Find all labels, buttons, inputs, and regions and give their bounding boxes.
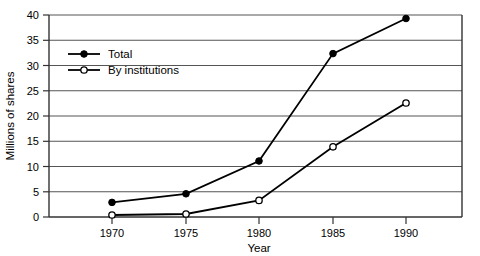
series-total-point-1980: [256, 158, 263, 165]
y-tick-label-30: 30: [27, 60, 39, 72]
x-tick-label-1985: 1985: [321, 227, 345, 239]
series-by-institutions-point-1985: [330, 144, 336, 150]
y-axis-tick-labels: 40 35 30 25 20 15 10 5 0: [27, 9, 39, 223]
y-tick-label-35: 35: [27, 34, 39, 46]
y-axis-title: Millions of shares: [4, 71, 16, 160]
series-by-institutions-point-1975: [183, 211, 189, 217]
y-tick-label-15: 15: [27, 135, 39, 147]
y-axis-ticks: [43, 15, 49, 217]
series-total-point-1975: [183, 191, 190, 198]
x-tick-label-1990: 1990: [394, 227, 418, 239]
y-tick-label-0: 0: [33, 211, 39, 223]
legend-label-total: Total: [108, 48, 132, 60]
x-axis-ticks: [112, 217, 406, 224]
series-by-institutions-point-1970: [109, 212, 115, 218]
x-axis-tick-labels: 1970 1975 1980 1985 1990: [100, 227, 418, 239]
y-tick-label-5: 5: [33, 186, 39, 198]
legend-label-by-institutions: By institutions: [108, 64, 179, 76]
legend-marker-open-circle-icon: [81, 67, 87, 73]
y-tick-label-20: 20: [27, 110, 39, 122]
y-tick-label-25: 25: [27, 85, 39, 97]
series-by-institutions-point-1990: [403, 100, 409, 106]
chart-canvas: 40 35 30 25 20 15 10 5 0 1970 1975 1980 …: [0, 0, 480, 256]
y-tick-label-40: 40: [27, 9, 39, 21]
series-total-point-1985: [330, 50, 337, 57]
x-axis-title: Year: [247, 242, 270, 254]
legend-marker-filled-circle-icon: [81, 51, 88, 58]
y-tick-label-10: 10: [27, 161, 39, 173]
x-tick-label-1975: 1975: [174, 227, 198, 239]
line-chart: 40 35 30 25 20 15 10 5 0 1970 1975 1980 …: [0, 0, 480, 256]
series-total-point-1970: [109, 199, 116, 206]
series-total-point-1990: [403, 15, 410, 22]
x-tick-label-1970: 1970: [100, 227, 124, 239]
series-by-institutions-point-1980: [256, 197, 262, 203]
x-tick-label-1980: 1980: [247, 227, 271, 239]
